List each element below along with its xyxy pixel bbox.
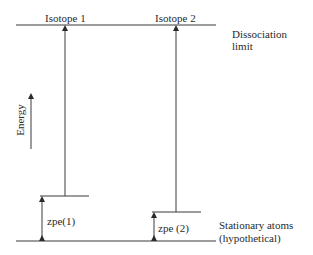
dissociation-label-line1: Dissociation <box>232 28 287 40</box>
isotope2-label: Isotope 2 <box>155 12 196 24</box>
isotope1-label: Isotope 1 <box>45 12 86 24</box>
energy-axis-label: Energy <box>14 102 26 138</box>
stationary-label-line2: (hypothetical) <box>219 232 281 244</box>
dissociation-label-line2: limit <box>232 40 253 52</box>
stationary-label-line1: Stationary atoms <box>219 219 293 231</box>
zpe2-label: zpe (2) <box>158 222 189 234</box>
zpe1-label: zpe(1) <box>47 215 75 227</box>
